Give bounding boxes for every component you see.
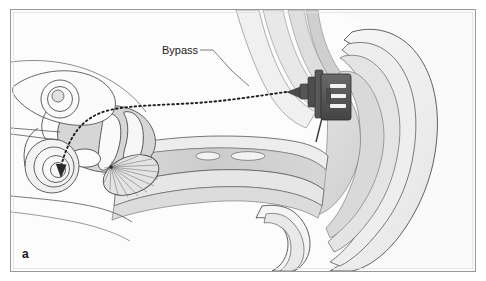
- illustration-body: Bypass a: [11, 10, 475, 271]
- panel-letter: a: [22, 247, 29, 261]
- eardrum-umbo: [109, 165, 113, 169]
- canal-ampulla: [52, 90, 64, 102]
- device-slot-mid: [330, 94, 346, 98]
- device-slot-top: [330, 84, 346, 88]
- canal-gland-1: [196, 152, 220, 160]
- device-spine: [326, 88, 331, 104]
- bypass-label: Bypass: [162, 44, 199, 56]
- figure-container: Bypass a: [0, 0, 486, 281]
- canal-gland-2: [231, 152, 265, 161]
- device-slot-bottom: [330, 104, 346, 108]
- ear-anatomy-illustration: Bypass a: [0, 0, 486, 281]
